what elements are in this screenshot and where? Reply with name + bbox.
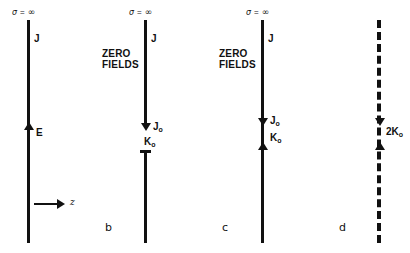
panel-a-zaxis-label: z xyxy=(70,198,75,207)
panel-c-zero-fields-line1: ZERO xyxy=(219,49,256,60)
panel-c-caption: c xyxy=(222,222,228,234)
panel-b-zero-fields-line2: FIELDS xyxy=(102,60,139,71)
sigma-symbol: σ xyxy=(246,8,251,17)
panel-d-lower-arrowhead xyxy=(375,142,385,150)
panel-b-zero-fields-line1: ZERO xyxy=(102,49,139,60)
panel-a-efield-arrow-shaft xyxy=(27,128,30,145)
panel-d-doubled-sheet-label: 2Ko xyxy=(386,127,403,138)
panel-b-conductor-line-upper xyxy=(144,20,147,125)
equals-symbol: = xyxy=(20,8,25,17)
physics-figure: σ = ∞ J E z σ = ∞ J ZERO FIELDS xyxy=(0,0,410,253)
panel-b-surface-current-arrowhead xyxy=(141,123,151,131)
panel-c-current-label: J xyxy=(268,34,274,45)
panel-b-conductor-line-lower xyxy=(144,150,147,243)
panel-a-zaxis-shaft xyxy=(34,203,58,205)
sigma-symbol: σ xyxy=(12,8,17,17)
panel-a-conductivity-label: σ = ∞ xyxy=(12,8,36,17)
panel-a-efield-label: E xyxy=(36,128,43,139)
panel-a-zaxis-arrowhead xyxy=(57,199,65,209)
sigma-symbol: σ xyxy=(129,8,134,17)
panel-c-zero-fields-line2: FIELDS xyxy=(219,60,256,71)
panel-b-caption: b xyxy=(105,222,112,234)
panel-b-zero-fields-label: ZERO FIELDS xyxy=(102,49,139,70)
equals-symbol: = xyxy=(137,8,142,17)
panel-b-current-label: J xyxy=(151,34,157,45)
panel-d-dashed-sheet-line xyxy=(377,20,381,243)
panel-a-efield-arrowhead xyxy=(24,122,34,130)
panel-d-caption: d xyxy=(339,222,346,234)
equals-symbol: = xyxy=(254,8,259,17)
panel-c-surface-current-label: Jo xyxy=(270,116,280,127)
panel-c-surface-current-arrowhead xyxy=(258,118,268,126)
panel-c-conductivity-label: σ = ∞ xyxy=(246,8,270,17)
panel-b-sheet-current-label: Ko xyxy=(144,137,156,148)
infinity-symbol: ∞ xyxy=(262,7,270,17)
panel-c-conductor-line xyxy=(261,20,264,243)
infinity-symbol: ∞ xyxy=(28,7,36,17)
panel-c-sheet-current-label: Ko xyxy=(270,133,282,144)
panel-a-current-label: J xyxy=(34,34,40,45)
panel-b-conductivity-label: σ = ∞ xyxy=(129,8,153,17)
infinity-symbol: ∞ xyxy=(145,7,153,17)
panel-d-upper-arrowhead xyxy=(375,118,385,126)
panel-b-surface-current-label: Jo xyxy=(153,122,163,133)
panel-c-sheet-current-arrowhead xyxy=(258,142,268,150)
panel-c-zero-fields-label: ZERO FIELDS xyxy=(219,49,256,70)
